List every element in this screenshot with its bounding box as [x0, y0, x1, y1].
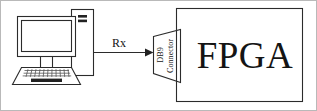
fpga-label: FPGA: [197, 35, 294, 76]
diagram-canvas: Rx DB9 Connector FPGA: [0, 0, 317, 111]
keyboard-keys: [23, 69, 71, 77]
db9-connector-label-line1: DB9: [156, 47, 165, 62]
monitor-bezel: [18, 17, 76, 57]
tower-drive-bay-slot-2: [78, 20, 87, 23]
rx-arrow-head: [145, 49, 154, 57]
db9-connector-label-line2: Connector: [166, 39, 175, 73]
tower-drive-bay-slot-1: [78, 15, 87, 18]
keyboard-spacebar: [31, 79, 62, 82]
rx-label: Rx: [112, 36, 126, 50]
desktop-computer-icon: [13, 10, 94, 85]
diagram-svg: Rx DB9 Connector FPGA: [0, 0, 317, 111]
